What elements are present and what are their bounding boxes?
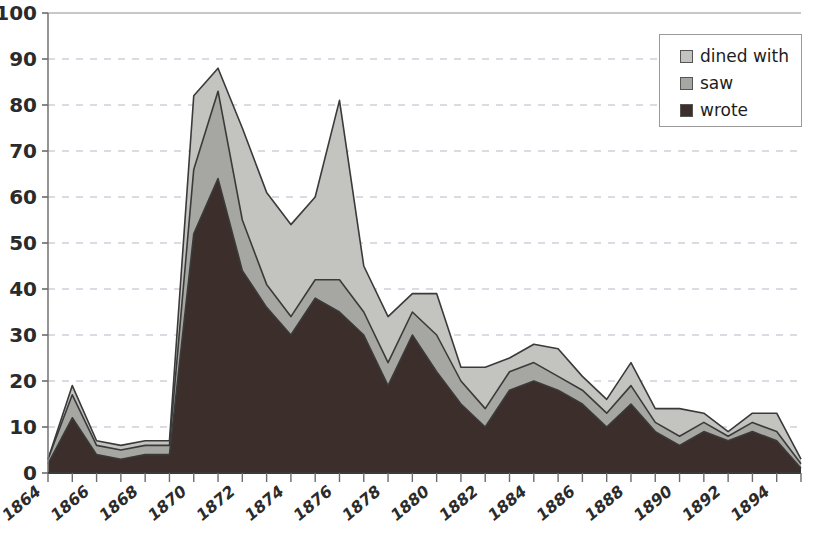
svg-text:50: 50 [9, 231, 37, 255]
svg-text:1880: 1880 [387, 482, 433, 525]
svg-text:1888: 1888 [581, 482, 627, 525]
svg-text:1882: 1882 [435, 482, 481, 525]
svg-text:1878: 1878 [338, 482, 384, 525]
svg-text:1874: 1874 [241, 482, 287, 525]
svg-text:0: 0 [23, 461, 37, 485]
svg-text:1876: 1876 [290, 482, 336, 525]
legend-item-dined-with: dined with [680, 43, 801, 70]
legend-swatch-wrote [680, 104, 693, 117]
chart-legend: dined with saw wrote [659, 34, 802, 127]
svg-text:1872: 1872 [193, 482, 239, 525]
svg-text:1866: 1866 [47, 482, 93, 525]
svg-text:10: 10 [9, 415, 37, 439]
svg-text:1892: 1892 [678, 482, 724, 525]
legend-swatch-dined-with [680, 50, 693, 63]
svg-text:1894: 1894 [727, 482, 773, 525]
svg-text:1864: 1864 [0, 482, 45, 525]
svg-text:30: 30 [9, 323, 37, 347]
svg-text:1868: 1868 [95, 482, 141, 525]
svg-text:20: 20 [9, 369, 37, 393]
y-axis-labels: 1009080706050403020100 [0, 1, 37, 485]
svg-text:40: 40 [9, 277, 37, 301]
svg-text:1886: 1886 [533, 482, 579, 525]
svg-text:90: 90 [9, 47, 37, 71]
svg-text:1884: 1884 [484, 482, 530, 525]
svg-text:70: 70 [9, 139, 37, 163]
legend-item-wrote: wrote [680, 97, 801, 124]
svg-text:100: 100 [0, 1, 37, 25]
x-axis-ticks [48, 473, 801, 482]
legend-label-wrote: wrote [700, 102, 748, 119]
legend-label-saw: saw [700, 75, 733, 92]
legend-swatch-saw [680, 77, 693, 90]
y-axis-ticks [42, 13, 48, 473]
svg-text:80: 80 [9, 93, 37, 117]
svg-text:1870: 1870 [144, 482, 190, 525]
legend-item-saw: saw [680, 70, 801, 97]
svg-text:60: 60 [9, 185, 37, 209]
x-axis-labels: 1864186618681870187218741876187818801882… [0, 482, 773, 525]
stacked-areas [48, 68, 801, 473]
legend-label-dined-with: dined with [700, 48, 789, 65]
svg-text:1890: 1890 [630, 482, 676, 525]
area-chart: 1009080706050403020100 18641866186818701… [0, 0, 816, 540]
